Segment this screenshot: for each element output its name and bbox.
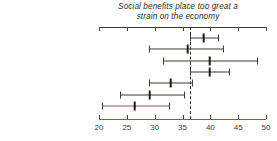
chart-title-line-1: Social benefits place too great a	[118, 2, 238, 11]
ci-lower-cap	[102, 102, 103, 109]
data-point-marker	[170, 79, 172, 88]
ci-upper-cap	[257, 57, 258, 64]
ci-lower-cap	[190, 68, 191, 75]
data-point-marker	[202, 34, 204, 43]
ci-upper-cap	[169, 102, 170, 109]
ci-lower-cap	[190, 35, 191, 42]
data-point-marker	[149, 90, 151, 99]
x-tick-bottom-40	[210, 115, 211, 119]
x-tick-top-45	[238, 27, 239, 31]
chart-title: Social benefits place too great a strain…	[88, 2, 268, 21]
x-tick-label-35: 35	[178, 123, 187, 132]
x-tick-label-50: 50	[262, 123, 271, 132]
plot-area: 20253035404550	[99, 27, 266, 120]
ci-lower-cap	[149, 80, 150, 87]
x-axis-color-fringe	[155, 119, 211, 120]
data-point-marker	[209, 67, 211, 76]
ci-lower-cap	[149, 46, 150, 53]
chart-title-line-2: strain on the economy	[88, 12, 268, 22]
x-tick-label-20: 20	[95, 123, 104, 132]
x-tick-bottom-30	[155, 115, 156, 119]
data-point-marker	[209, 56, 211, 65]
x-tick-label-30: 30	[150, 123, 159, 132]
ci-upper-cap	[223, 46, 224, 53]
chart-container: Social benefits place too great a strain…	[0, 0, 277, 141]
x-tick-label-40: 40	[206, 123, 215, 132]
x-tick-top-35	[183, 27, 184, 31]
x-tick-bottom-35	[183, 115, 184, 119]
x-tick-top-50	[266, 27, 267, 31]
ci-upper-cap	[229, 68, 230, 75]
x-tick-top-40	[210, 27, 211, 31]
x-tick-top-25	[127, 27, 128, 31]
ci-upper-cap	[184, 91, 185, 98]
ci-upper-cap	[218, 35, 219, 42]
x-tick-bottom-25	[127, 115, 128, 119]
x-tick-bottom-20	[99, 115, 100, 119]
x-tick-label-45: 45	[234, 123, 243, 132]
data-point-marker	[187, 45, 189, 54]
ci-lower-cap	[120, 91, 121, 98]
x-tick-bottom-45	[238, 115, 239, 119]
data-point-marker	[134, 101, 136, 110]
ci-upper-cap	[192, 80, 193, 87]
ci-lower-cap	[163, 57, 164, 64]
x-tick-top-20	[99, 27, 100, 31]
x-tick-bottom-50	[266, 115, 267, 119]
confidence-interval-line	[120, 94, 185, 95]
x-tick-top-30	[155, 27, 156, 31]
x-tick-label-25: 25	[122, 123, 131, 132]
